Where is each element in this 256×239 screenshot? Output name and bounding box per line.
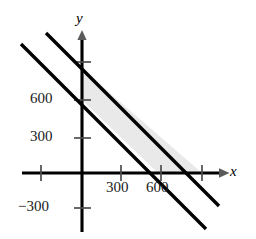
x-tick-label-300: 300 xyxy=(106,180,129,195)
graph-figure: y x 600 300 −300 300 600 xyxy=(0,0,256,239)
y-tick-label-300: 300 xyxy=(30,129,53,144)
y-axis xyxy=(77,30,86,232)
x-tick-label-600: 600 xyxy=(146,180,169,195)
y-axis-label: y xyxy=(76,11,83,26)
y-tick-label-600: 600 xyxy=(30,91,53,106)
y-tick-label-neg300: −300 xyxy=(18,199,49,214)
x-axis-label: x xyxy=(230,164,237,179)
upper-boundary-line xyxy=(46,33,219,206)
x-axis xyxy=(22,168,230,178)
